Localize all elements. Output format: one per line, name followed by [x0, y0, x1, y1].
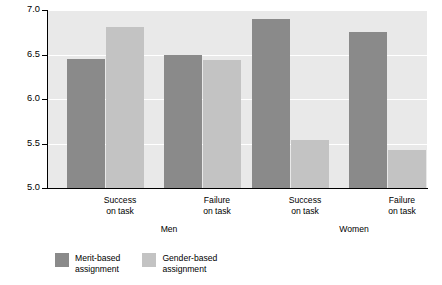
x-group-label-women: Women — [314, 224, 394, 234]
bar-women-success-merit — [252, 19, 290, 188]
legend-label-merit-based: Merit-based assignment — [75, 253, 120, 274]
bar-men-success-gender — [106, 27, 144, 188]
bar-women-failure-merit — [349, 32, 387, 189]
x-tick-label-men-failure: Failure on task — [177, 195, 257, 216]
gridline-7.0 — [47, 10, 427, 11]
x-tick-label-women-success: Success on task — [265, 195, 345, 216]
y-tick-5.5 — [42, 144, 47, 145]
bar-men-failure-merit — [164, 55, 202, 189]
legend-swatch-gender-based — [142, 253, 156, 267]
legend-label-gender-based: Gender-based assignment — [162, 253, 217, 274]
legend-swatch-merit-based — [55, 253, 69, 267]
y-axis-line — [47, 10, 48, 189]
y-tick-6.5 — [42, 55, 47, 56]
legend: Merit-based assignment Gender-based assi… — [55, 253, 217, 274]
y-tick-5.0 — [42, 188, 47, 189]
x-group-label-men: Men — [129, 224, 209, 234]
x-tick-label-women-failure: Failure on task — [362, 195, 442, 216]
legend-item-gender-based: Gender-based assignment — [142, 253, 217, 274]
y-tick-label-6.0: 6.0 — [8, 93, 40, 103]
chart-container: Participants' self-ratings of leadership… — [0, 0, 442, 285]
plot-area — [47, 10, 427, 188]
x-tick-label-men-success: Success on task — [80, 195, 160, 216]
y-tick-label-5.0: 5.0 — [8, 182, 40, 192]
bar-women-failure-gender — [388, 150, 426, 188]
bar-men-failure-gender — [203, 60, 241, 188]
bar-women-success-gender — [291, 140, 329, 188]
legend-item-merit-based: Merit-based assignment — [55, 253, 120, 274]
y-tick-label-7.0: 7.0 — [8, 4, 40, 14]
y-tick-7.0 — [42, 10, 47, 11]
y-tick-label-5.5: 5.5 — [8, 138, 40, 148]
x-axis-line — [47, 188, 428, 189]
bar-men-success-merit — [67, 59, 105, 188]
y-tick-label-6.5: 6.5 — [8, 49, 40, 59]
y-tick-6.0 — [42, 99, 47, 100]
